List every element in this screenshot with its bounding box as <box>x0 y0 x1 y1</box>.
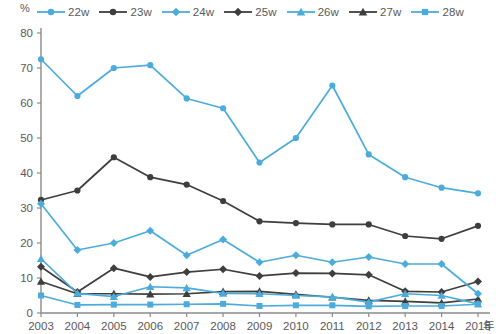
y-axis-ticks: 01020304050607080 <box>20 27 41 319</box>
data-point <box>38 56 44 62</box>
data-point <box>329 302 335 308</box>
plot-area: 0102030405060708020032004200520062007200… <box>0 0 496 334</box>
x-axis-ticks: 2003200420052006200720082009201020112012… <box>28 313 493 332</box>
y-tick-label: 40 <box>20 167 33 179</box>
data-point <box>366 221 372 227</box>
data-point <box>475 223 481 229</box>
data-point <box>37 255 45 262</box>
data-point <box>257 303 263 309</box>
data-point <box>328 269 336 277</box>
data-point <box>220 301 226 307</box>
data-point <box>183 268 191 276</box>
y-tick-label: 70 <box>20 62 33 74</box>
data-point <box>147 174 153 180</box>
y-tick-label: 60 <box>20 97 33 109</box>
x-tick-label: 2003 <box>28 320 54 332</box>
data-point <box>365 271 373 279</box>
data-point <box>220 105 226 111</box>
series-line <box>41 157 478 239</box>
x-tick-label: 2014 <box>429 320 455 332</box>
data-point <box>329 82 335 88</box>
data-point <box>475 301 481 307</box>
x-axis-unit-label: 年 <box>483 319 494 332</box>
y-tick-label: 0 <box>27 307 33 319</box>
axes <box>41 28 490 313</box>
x-tick-label: 2008 <box>210 320 236 332</box>
data-point <box>111 154 117 160</box>
y-tick-label: 50 <box>20 132 33 144</box>
data-point <box>74 93 80 99</box>
data-point <box>474 278 482 286</box>
x-tick-label: 2011 <box>320 320 345 332</box>
data-point <box>146 273 154 281</box>
data-point <box>329 221 335 227</box>
data-point <box>220 198 226 204</box>
data-point <box>293 220 299 226</box>
data-point <box>147 302 153 308</box>
data-point <box>184 301 190 307</box>
data-point <box>219 265 227 273</box>
data-point <box>292 251 300 259</box>
y-tick-label: 10 <box>20 272 33 284</box>
data-point <box>402 303 408 309</box>
line-chart: 22w23w24w25w26w27w28w % 0102030405060708… <box>0 0 496 334</box>
data-point <box>256 159 262 165</box>
data-point <box>293 302 299 308</box>
x-tick-label: 2005 <box>101 320 127 332</box>
data-point <box>402 233 408 239</box>
data-point <box>438 236 444 242</box>
x-tick-label: 2013 <box>392 320 418 332</box>
data-point <box>292 269 300 277</box>
y-tick-label: 20 <box>20 237 33 249</box>
data-point <box>256 218 262 224</box>
data-point <box>74 302 80 308</box>
data-point <box>110 239 118 247</box>
x-tick-label: 2010 <box>283 320 309 332</box>
data-point <box>38 293 44 299</box>
data-point <box>366 303 372 309</box>
x-tick-label: 2004 <box>65 320 91 332</box>
data-point <box>256 258 264 266</box>
series-line <box>41 59 478 193</box>
data-point <box>365 253 373 261</box>
data-point <box>256 272 264 280</box>
data-point <box>184 181 190 187</box>
series-line <box>41 204 478 294</box>
data-point <box>111 65 117 71</box>
data-point <box>475 190 481 196</box>
data-point <box>439 303 445 309</box>
y-tick-label: 80 <box>20 27 33 39</box>
data-point <box>111 302 117 308</box>
x-tick-label: 2006 <box>137 320 163 332</box>
data-point <box>366 151 372 157</box>
data-point <box>74 187 80 193</box>
data-point <box>219 236 227 244</box>
series-23w <box>38 154 481 242</box>
data-point <box>328 258 336 266</box>
x-tick-label: 2007 <box>174 320 200 332</box>
data-point <box>438 185 444 191</box>
y-tick-label: 30 <box>20 202 33 214</box>
x-tick-label: 2012 <box>356 320 382 332</box>
series-22w <box>38 56 481 196</box>
data-point <box>293 135 299 141</box>
data-point <box>401 260 409 268</box>
series-24w <box>37 200 482 298</box>
data-point <box>402 174 408 180</box>
data-point <box>147 62 153 68</box>
data-point <box>184 95 190 101</box>
x-tick-label: 2009 <box>247 320 273 332</box>
